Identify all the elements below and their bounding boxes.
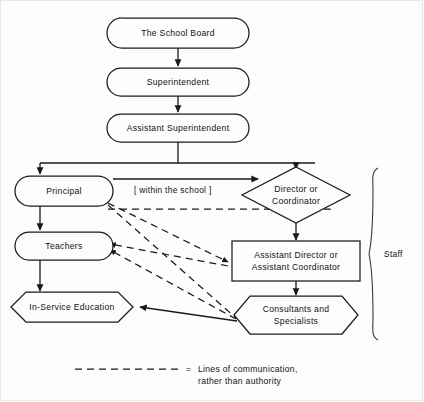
legend-equals-sign: =: [186, 364, 191, 374]
node-assistant-superintendent-label: Assistant Superintendent: [127, 123, 230, 133]
node-in-service-education-label: In-Service Education: [29, 302, 114, 312]
edge-consultants-to-inservice: [140, 307, 237, 321]
node-assistant-director-line1: Assistant Director or: [254, 250, 338, 260]
dashed-assistant-director-to-teachers: [110, 244, 228, 266]
org-chart-svg: The School Board Superintendent Assistan…: [0, 0, 424, 402]
node-assistant-director[interactable]: [232, 241, 360, 281]
staff-bracket-label: Staff: [384, 249, 403, 259]
diagram-page: The School Board Superintendent Assistan…: [0, 0, 424, 402]
node-school-board-label: The School Board: [141, 28, 215, 38]
node-director-line2: Coordinator: [272, 196, 320, 206]
node-teachers-label: Teachers: [45, 241, 82, 251]
node-director-line1: Director or: [274, 184, 317, 194]
node-consultants-line1: Consultants and: [263, 304, 330, 314]
node-consultants-line2: Specialists: [274, 316, 318, 326]
node-assistant-director-line2: Assistant Coordinator: [252, 262, 340, 272]
node-superintendent-label: Superintendent: [147, 77, 210, 87]
staff-brace: [369, 168, 378, 340]
legend-line-1: Lines of communication,: [198, 364, 298, 374]
node-consultants-and-specialists[interactable]: [234, 296, 358, 334]
node-principal-label: Principal: [46, 186, 82, 196]
within-school-annotation: [ within the school ]: [134, 185, 212, 195]
node-director-or-coordinator[interactable]: [242, 167, 350, 223]
legend-line-2: rather than authority: [198, 376, 282, 386]
dashed-principal-to-assistant-director: [108, 203, 228, 262]
